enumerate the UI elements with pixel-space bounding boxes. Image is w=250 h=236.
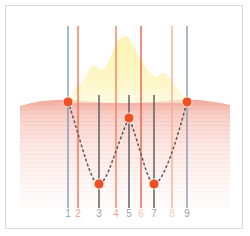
marker-point-1[interactable] [63,97,73,107]
marker-point-9[interactable] [182,97,192,107]
marker-point-3[interactable] [94,179,104,189]
marker-point-7[interactable] [149,179,159,189]
diagram-canvas [6,6,243,229]
screenshot-root: 123456789 [0,0,250,236]
tumor-mass-shape [68,36,188,103]
figure-card: 123456789 [5,5,243,229]
marker-point-5[interactable] [124,113,134,123]
